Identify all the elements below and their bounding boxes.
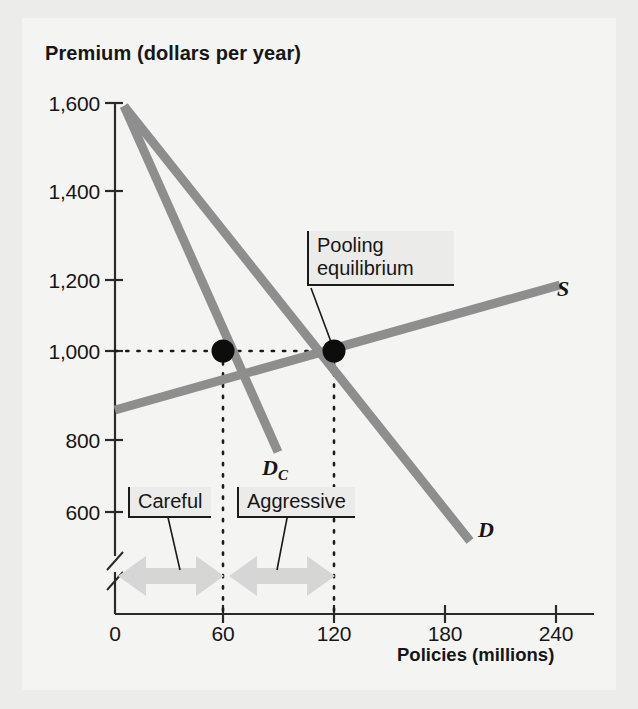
careful-demand-letter: D bbox=[262, 455, 278, 480]
careful-callout: Careful bbox=[128, 487, 211, 518]
y-tick-label-1200: 1,200 bbox=[28, 269, 100, 293]
careful-demand-curve-label: DC bbox=[262, 455, 288, 484]
figure-container: Premium (dollars per year) Policies (mil… bbox=[0, 0, 638, 709]
y-tick-label-800: 800 bbox=[28, 429, 100, 453]
y-tick-label-600: 600 bbox=[28, 501, 100, 525]
supply-curve-label: S bbox=[557, 276, 569, 302]
x-tick-label-0: 0 bbox=[85, 622, 145, 646]
x-tick-label-240: 240 bbox=[526, 622, 586, 646]
y-tick-label-1400: 1,400 bbox=[28, 180, 100, 204]
x-axis-title: Policies (millions) bbox=[397, 644, 554, 666]
careful-demand-subscript: C bbox=[278, 467, 288, 483]
careful-callout-leader bbox=[167, 513, 180, 570]
aggressive-callout-leader bbox=[277, 513, 288, 570]
careful-point bbox=[212, 340, 235, 363]
x-tick-label-120: 120 bbox=[304, 622, 364, 646]
pooling-callout-line1: Pooling bbox=[317, 234, 445, 257]
aggressive-callout: Aggressive bbox=[237, 487, 355, 518]
pooling-equilibrium-callout: Pooling equilibrium bbox=[307, 231, 454, 286]
pooling-equilibrium-point bbox=[323, 340, 346, 363]
y-tick-label-1600: 1,600 bbox=[28, 92, 100, 116]
demand-curve-label: D bbox=[478, 517, 494, 543]
pooling-callout-line2: equilibrium bbox=[317, 257, 445, 280]
x-tick-label-180: 180 bbox=[415, 622, 475, 646]
aggressive-span-arrow bbox=[229, 556, 335, 596]
y-tick-label-1000: 1,000 bbox=[28, 340, 100, 364]
x-tick-label-60: 60 bbox=[193, 622, 253, 646]
careful-span-arrow bbox=[118, 556, 224, 596]
y-axis-title: Premium (dollars per year) bbox=[45, 42, 301, 65]
